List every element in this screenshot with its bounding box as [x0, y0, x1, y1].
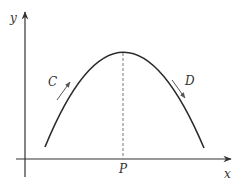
c-label: C [48, 75, 57, 89]
y-axis-label: y [9, 11, 17, 25]
d-label: D [184, 74, 195, 88]
peak-label: P [118, 162, 128, 176]
diagram-canvas: y x P C D [0, 0, 243, 185]
c-arrow-icon [57, 82, 70, 100]
curve [45, 52, 204, 148]
x-axis-label: x [224, 167, 231, 181]
